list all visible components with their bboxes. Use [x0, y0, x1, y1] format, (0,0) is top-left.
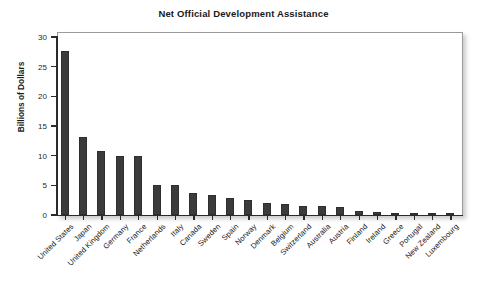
- x-tick-label: Portugal: [397, 222, 424, 249]
- bar[interactable]: [171, 185, 179, 215]
- x-tick-mark: [101, 215, 102, 220]
- x-tick-mark: [303, 215, 304, 220]
- bar[interactable]: [410, 213, 418, 215]
- x-tick-mark: [248, 215, 249, 220]
- x-tick-label: Japan: [72, 222, 93, 243]
- y-tick-label: 0: [13, 211, 47, 220]
- x-tick-mark: [340, 215, 341, 220]
- x-tick-label: Austria: [327, 222, 351, 246]
- x-tick-label: Denmark: [248, 222, 277, 251]
- y-tick-mark: [51, 96, 57, 97]
- bar[interactable]: [428, 213, 436, 215]
- x-tick-label: Netherlands: [131, 222, 167, 258]
- x-tick-mark: [175, 215, 176, 220]
- bar[interactable]: [189, 193, 197, 215]
- x-tick-mark: [120, 215, 121, 220]
- x-tick-mark: [414, 215, 415, 220]
- bar[interactable]: [116, 156, 124, 215]
- x-tick-mark: [230, 215, 231, 220]
- bar[interactable]: [226, 198, 234, 215]
- y-tick-label: 15: [13, 122, 47, 131]
- x-tick-mark: [65, 215, 66, 220]
- x-tick-label: Australia: [304, 222, 332, 250]
- y-tick-label: 25: [13, 62, 47, 71]
- bar[interactable]: [336, 207, 344, 215]
- bar[interactable]: [318, 206, 326, 215]
- x-tick-mark: [395, 215, 396, 220]
- x-tick-label: New Zealand: [404, 222, 443, 261]
- x-tick-label: Canada: [178, 222, 204, 248]
- bar[interactable]: [208, 195, 216, 215]
- x-tick-label: Switzerland: [279, 222, 314, 257]
- x-tick-mark: [267, 215, 268, 220]
- y-tick-label: 5: [13, 181, 47, 190]
- y-tick-label: 20: [13, 92, 47, 101]
- x-tick-mark: [83, 215, 84, 220]
- bar[interactable]: [244, 200, 252, 215]
- x-tick-label: Sweden: [196, 222, 222, 248]
- x-tick-mark: [432, 215, 433, 220]
- y-tick-mark: [51, 36, 57, 37]
- bar[interactable]: [61, 51, 69, 215]
- bar[interactable]: [446, 213, 454, 215]
- chart-figure: Net Official Development Assistance Bill…: [0, 0, 487, 307]
- bar[interactable]: [134, 156, 142, 215]
- y-tick-mark: [51, 125, 57, 126]
- x-tick-label: Spain: [220, 222, 240, 242]
- y-tick-mark: [51, 66, 57, 67]
- x-tick-label: Ireland: [364, 222, 387, 245]
- bar[interactable]: [263, 203, 271, 215]
- bar[interactable]: [97, 151, 105, 215]
- y-tick-mark: [51, 214, 57, 215]
- x-tick-label: United States: [36, 222, 76, 262]
- x-tick-label: Finland: [344, 222, 368, 246]
- x-tick-mark: [322, 215, 323, 220]
- x-tick-label: Greece: [381, 222, 405, 246]
- x-tick-label: Luxembourg: [424, 222, 461, 259]
- x-tick-mark: [450, 215, 451, 220]
- y-tick-label: 30: [13, 33, 47, 42]
- x-tick-label: Germany: [101, 222, 130, 251]
- bar[interactable]: [153, 185, 161, 215]
- x-tick-mark: [138, 215, 139, 220]
- bar[interactable]: [373, 212, 381, 215]
- x-tick-mark: [157, 215, 158, 220]
- x-tick-label: Belgium: [269, 222, 295, 248]
- x-tick-mark: [193, 215, 194, 220]
- x-tick-label: United Kingdom: [66, 222, 112, 268]
- y-tick-label: 10: [13, 151, 47, 160]
- bar[interactable]: [281, 204, 289, 215]
- x-tick-label: Norway: [234, 222, 259, 247]
- x-tick-label: Italy: [169, 222, 186, 239]
- x-tick-mark: [212, 215, 213, 220]
- bar[interactable]: [355, 211, 363, 215]
- bar[interactable]: [79, 137, 87, 215]
- chart-title: Net Official Development Assistance: [0, 8, 487, 19]
- bar[interactable]: [299, 206, 307, 215]
- x-tick-label: France: [125, 222, 149, 246]
- y-tick-mark: [51, 155, 57, 156]
- bars-container: [58, 37, 462, 215]
- x-tick-mark: [285, 215, 286, 220]
- y-tick-mark: [51, 185, 57, 186]
- bar[interactable]: [391, 213, 399, 215]
- x-tick-mark: [377, 215, 378, 220]
- x-tick-mark: [359, 215, 360, 220]
